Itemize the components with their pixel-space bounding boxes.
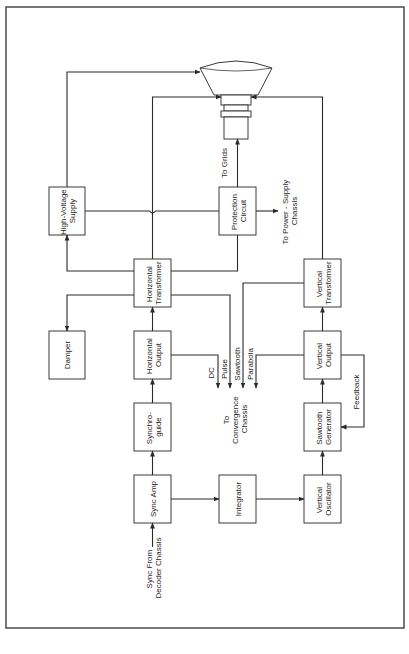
block-sawtooth-generator: Sawtooth Generator bbox=[304, 403, 341, 451]
svg-text:Horizontal Transformer: Horizontal Transformer bbox=[145, 261, 163, 305]
label-to-power-supply: To Power - Supply Chassis bbox=[281, 177, 299, 244]
block-sync-amp: Sync Amp bbox=[134, 475, 171, 523]
svg-text:Sawtooth Generator: Sawtooth Generator bbox=[315, 409, 333, 445]
svg-text:Vertical Output: Vertical Output bbox=[315, 341, 333, 369]
block-synchroguide: Synchro- guide bbox=[134, 403, 171, 451]
block-diagram: High-Voltage Supply Protection Circuit H… bbox=[0, 0, 409, 654]
svg-text:Integrator: Integrator bbox=[234, 482, 243, 517]
label-feedback: Feedback bbox=[352, 373, 361, 409]
block-horizontal-transformer: Horizontal Transformer bbox=[134, 259, 171, 307]
block-horizontal-output: Horizontal Output bbox=[134, 331, 171, 379]
block-integrator: Integrator bbox=[219, 475, 256, 523]
label-pulse: Pulse bbox=[220, 358, 229, 379]
wire-hvsupply-crt bbox=[67, 72, 200, 187]
wire-parabola bbox=[256, 355, 304, 388]
picture-tube-icon bbox=[200, 61, 272, 139]
wire-htransformer-hvsupply bbox=[67, 235, 134, 271]
label-sync-from-decoder: Sync From Decoder Chassis bbox=[145, 538, 163, 599]
label-parabola: Parabola bbox=[246, 347, 255, 380]
svg-text:Damper: Damper bbox=[63, 340, 72, 369]
wire-htransformer-crt bbox=[153, 97, 222, 259]
label-to-grids: To Grids bbox=[220, 148, 229, 178]
wire-htransformer-protection bbox=[171, 235, 238, 271]
block-damper: Damper bbox=[49, 331, 85, 379]
block-high-voltage-supply: High-Voltage Supply bbox=[49, 187, 85, 235]
label-sawtooth: Sawtooth bbox=[233, 347, 242, 380]
wire-htransformer-damper bbox=[67, 295, 134, 331]
diagram-frame bbox=[6, 7, 404, 628]
block-protection-circuit: Protection Circuit bbox=[219, 187, 256, 235]
svg-text:Vertical Oscillator: Vertical Oscillator bbox=[315, 482, 333, 516]
block-vertical-output: Vertical Output bbox=[304, 331, 341, 379]
block-vertical-transformer: Vertical Transformer bbox=[304, 259, 341, 307]
label-dc: DC bbox=[207, 367, 216, 379]
block-vertical-oscillator: Vertical Oscillator bbox=[304, 475, 341, 523]
svg-text:Sync Amp: Sync Amp bbox=[149, 480, 158, 517]
label-to-convergence: To Convergence Chassis bbox=[222, 394, 249, 444]
